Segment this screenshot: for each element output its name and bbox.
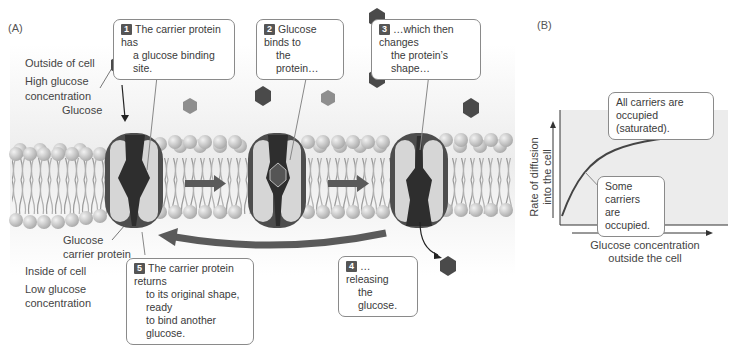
step-2-callout: 2Glucose binds to the protein… [256,19,344,80]
high-conc-label-2: concentration [25,89,91,104]
step-number-badge: 4 [346,261,357,272]
saturated-callout: All carriers are occupied (saturated). [608,92,714,140]
step-1-callout: 1The carrier protein has a glucose bindi… [113,19,235,80]
step-number-badge: 2 [264,24,275,35]
step-4-callout: 4…releasing the glucose. [338,256,418,317]
carrier-protein-bound [248,133,306,228]
low-conc-label-1: Low glucose [25,282,86,297]
carrier-protein-open-outside [105,133,163,228]
low-conc-label-2: concentration [25,296,91,311]
panel-b-label: (B) [537,19,552,31]
x-axis-arrow-icon [706,230,713,236]
outside-cell-label: Outside of cell [25,56,95,71]
glucose-label: Glucose [62,103,102,118]
carrier-protein-open-inside [390,133,448,228]
x-axis-label: Glucose concentration outside the cell [570,239,720,265]
step-3-callout: 3…which then changes the protein’s shape… [371,19,481,80]
step-number-badge: 5 [134,263,145,274]
high-conc-label-1: High glucose [25,74,89,89]
carrier-label-2: carrier protein [63,247,131,262]
partial-callout: Some carriers are occupied. [597,176,665,237]
step-number-badge: 1 [121,24,132,35]
step-number-badge: 3 [379,24,390,35]
inside-cell-label: Inside of cell [25,264,86,279]
carrier-label-1: Glucose [63,233,103,248]
step-5-callout: 5The carrier protein returns to its orig… [126,258,254,345]
